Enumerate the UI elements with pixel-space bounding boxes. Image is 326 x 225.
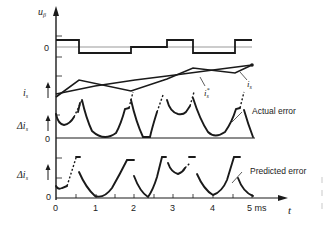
x-tick-1: 1 — [93, 203, 98, 213]
current-arrowhead-icon — [46, 82, 51, 88]
x-axis-arrow-icon — [278, 195, 288, 201]
actual-error-ylabel: Δis — [16, 120, 29, 132]
actual-error-label: Actual error — [252, 106, 296, 116]
predicted-error-jumps — [67, 158, 190, 186]
predicted-arrowhead-icon — [46, 164, 51, 170]
x-tick-3: 3 — [170, 203, 175, 213]
actual-error-jumps — [74, 92, 244, 117]
x-tick-0: 0 — [53, 203, 58, 213]
predicted-error-label: Predicted error — [250, 166, 306, 176]
error-prediction-diagram: uβ 0 is i*s is Δis 0 Actual error Δis 0 … — [0, 0, 326, 225]
reference-current-line — [56, 65, 252, 94]
voltage-label: uβ — [38, 6, 46, 18]
actual-leader-line — [240, 72, 247, 80]
actual-current-line — [56, 65, 252, 97]
predicted-error-curve — [56, 157, 253, 197]
x-tick-5: 5 ms — [247, 203, 267, 213]
ref-leader-line — [200, 77, 205, 86]
actual-zero-label: 0 — [45, 134, 50, 144]
predicted-zero-label: 0 — [46, 192, 51, 202]
x-tick-2: 2 — [131, 203, 136, 213]
voltage-zero-label: 0 — [44, 43, 49, 53]
actual-error-curve — [56, 98, 253, 137]
voltage-square-wave — [56, 40, 252, 53]
predicted-error-leader — [232, 172, 242, 183]
reference-current-label: i*s — [204, 87, 210, 99]
x-tick-4: 4 — [210, 203, 215, 213]
actual-current-label: is — [247, 79, 253, 90]
y-axis-arrow-icon — [53, 6, 59, 16]
x-axis-label: t — [288, 204, 292, 216]
current-endpoint — [250, 63, 254, 67]
current-label: is — [23, 87, 29, 99]
predicted-error-ylabel: Δis — [16, 169, 29, 181]
actual-arrowhead-icon — [46, 115, 51, 121]
